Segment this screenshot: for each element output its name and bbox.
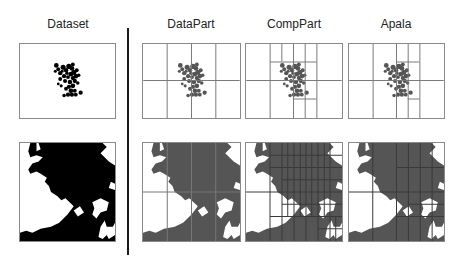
cluster-scatter-partitioned (246, 44, 342, 118)
panel-dataset-cluster (19, 43, 116, 119)
column-title-apala: Apala (346, 17, 446, 31)
dense-region-map-partitioned (246, 143, 342, 241)
panel-apala-map (348, 142, 445, 242)
column-title-dataset: Dataset (18, 17, 118, 31)
panel-datapart-cluster (142, 43, 241, 119)
cluster-scatter-partitioned (349, 44, 444, 118)
dense-region-map (20, 143, 115, 241)
panel-comppart-map (245, 142, 343, 242)
panel-dataset-map (19, 142, 116, 242)
panel-comppart-cluster (245, 43, 343, 119)
column-divider (127, 28, 129, 255)
cluster-scatter-partitioned (143, 44, 240, 118)
panel-apala-cluster (348, 43, 445, 119)
column-title-datapart: DataPart (141, 17, 241, 31)
dense-region-map-partitioned (143, 143, 240, 241)
cluster-scatter (20, 44, 115, 118)
column-title-comppart: CompPart (244, 17, 344, 31)
panel-datapart-map (142, 142, 241, 242)
dense-region-map-partitioned (349, 143, 444, 241)
